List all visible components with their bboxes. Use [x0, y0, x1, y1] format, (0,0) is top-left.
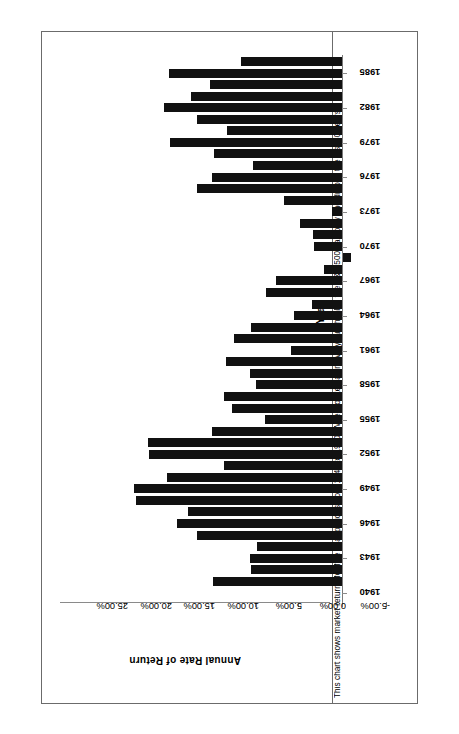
bar [188, 507, 342, 516]
bar [250, 369, 342, 378]
bar [212, 427, 342, 436]
bar [227, 126, 342, 135]
bar [251, 323, 342, 332]
bar [253, 161, 342, 170]
bar [170, 138, 342, 147]
bar [136, 496, 342, 505]
bar [291, 346, 342, 355]
bar [148, 438, 342, 447]
bar [284, 196, 342, 205]
year-tick-label: 1961 [352, 345, 388, 355]
year-tick-label: 1958 [352, 379, 388, 389]
year-tick-label: 1949 [352, 483, 388, 493]
bar [313, 230, 342, 239]
year-tick [342, 281, 347, 282]
year-tick-label: 1952 [352, 448, 388, 458]
year-tick [342, 558, 347, 559]
year-tick-label: 1979 [352, 137, 388, 147]
year-tick [342, 524, 347, 525]
bar [212, 173, 342, 182]
year-tick [342, 420, 347, 421]
bar [226, 357, 342, 366]
year-tick [342, 73, 347, 74]
bar [214, 149, 342, 158]
bar [210, 80, 342, 89]
year-tick-label: 1976 [352, 171, 388, 181]
bar [224, 461, 342, 470]
bar [213, 577, 342, 586]
bar [266, 288, 342, 297]
year-tick-label: 1943 [352, 552, 388, 562]
bar [167, 473, 342, 482]
year-tick-label: 1982 [352, 102, 388, 112]
bar [191, 92, 342, 101]
year-tick-label: 1967 [352, 275, 388, 285]
bar [300, 219, 342, 228]
bar [197, 531, 342, 540]
year-tick [342, 108, 347, 109]
year-tick-label: 1964 [352, 310, 388, 320]
year-tick-label: 1940 [352, 587, 388, 597]
bar [234, 334, 342, 343]
zero-baseline [342, 55, 343, 602]
bar [343, 253, 351, 262]
value-axis-title: Annual Rate of Return [60, 655, 310, 666]
figure-root: Figure 5.3S&P Return Within Five Year In… [0, 0, 459, 734]
bar [250, 554, 342, 563]
bar [314, 242, 342, 251]
bar [324, 265, 342, 274]
bar [241, 57, 342, 66]
value-tick-label: -5.00% [320, 601, 390, 611]
bar [164, 103, 342, 112]
bar [276, 276, 342, 285]
year-tick [342, 247, 347, 248]
bar [224, 392, 342, 401]
year-tick [342, 593, 347, 594]
year-tick [342, 351, 347, 352]
year-tick [342, 212, 347, 213]
year-tick-label: 1985 [352, 67, 388, 77]
bar [312, 300, 342, 309]
year-tick [342, 316, 347, 317]
year-tick-label: 1955 [352, 414, 388, 424]
bar [177, 519, 342, 528]
bar [169, 69, 342, 78]
bar [256, 380, 342, 389]
bar [149, 450, 342, 459]
bar [265, 415, 342, 424]
year-tick-label: 1970 [352, 241, 388, 251]
year-tick-label: 1973 [352, 206, 388, 216]
bar [332, 207, 342, 216]
bar [197, 184, 342, 193]
bar [134, 484, 342, 493]
year-tick [342, 454, 347, 455]
bar [251, 565, 342, 574]
year-tick-label: 1946 [352, 518, 388, 528]
year-tick [342, 489, 347, 490]
year-tick [342, 385, 347, 386]
year-tick [342, 177, 347, 178]
bar [232, 404, 342, 413]
bar [197, 115, 342, 124]
bar [294, 311, 342, 320]
plot-area: 25.00%20.00%15.00%10.00%5.00%0.00%-5.00%… [60, 55, 330, 602]
year-tick [342, 143, 347, 144]
bar [257, 542, 342, 551]
value-axis-title-wrap: Annual Rate of Return [60, 655, 310, 679]
